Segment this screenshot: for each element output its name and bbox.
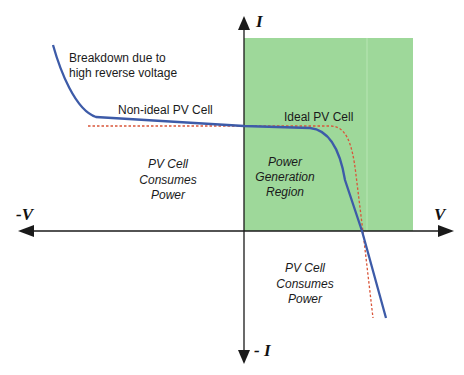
axis-label-neg-i: - I	[254, 341, 272, 360]
axis-label-v: V	[434, 205, 447, 224]
breakdown-label-line2: high reverse voltage	[69, 66, 177, 80]
arrow-right-icon	[438, 225, 454, 237]
powergen-line2: Generation	[255, 170, 315, 184]
arrow-left-icon	[18, 225, 34, 237]
consumes-right-line3: Power	[288, 292, 323, 306]
consumes-right-line2: Consumes	[276, 277, 333, 291]
iv-curve-diagram: I - I V -V Breakdown due to high reverse…	[0, 0, 464, 375]
axis-label-neg-v: -V	[16, 205, 35, 224]
consumes-left-line1: PV Cell	[148, 157, 188, 171]
consumes-left-line2: Consumes	[139, 173, 196, 187]
ideal-label: Ideal PV Cell	[284, 110, 353, 124]
arrow-down-icon	[238, 350, 250, 364]
powergen-line3: Region	[266, 185, 304, 199]
axis-label-i: I	[255, 12, 264, 31]
consumes-left-line3: Power	[151, 188, 186, 202]
breakdown-label-line1: Breakdown due to	[69, 51, 166, 65]
nonideal-label: Non-ideal PV Cell	[118, 103, 213, 117]
diagram-canvas: I - I V -V Breakdown due to high reverse…	[0, 0, 464, 375]
power-generation-region	[244, 38, 413, 231]
powergen-line1: Power	[268, 155, 303, 169]
arrow-up-icon	[238, 16, 250, 30]
consumes-right-line1: PV Cell	[285, 261, 325, 275]
